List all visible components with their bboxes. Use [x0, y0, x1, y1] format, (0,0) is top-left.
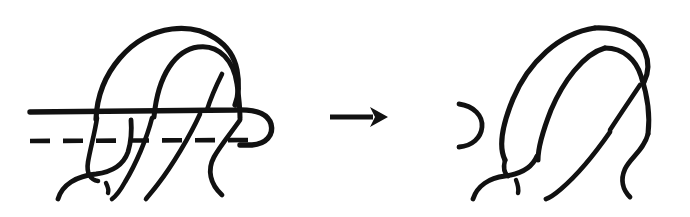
knot-figure-root: Knot diagram transformation A knot-theor… [0, 0, 690, 217]
knot-figure-canvas [0, 0, 690, 217]
bottom-tick [516, 180, 518, 193]
bottom-left-tick [106, 183, 108, 193]
figure-background [0, 0, 690, 217]
